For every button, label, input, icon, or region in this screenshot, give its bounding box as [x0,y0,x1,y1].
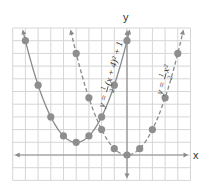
data-point [85,94,92,101]
x-axis-left-arrow-icon [15,153,20,158]
data-point [22,37,29,44]
data-point [85,132,92,139]
y-axis-label: y [123,11,129,23]
data-point [73,139,80,146]
data-point [136,145,143,152]
data-point [73,50,80,57]
data-point [111,145,118,152]
y-axis-down-arrow-icon [125,173,130,178]
curve-arrow-icon [69,30,74,35]
data-point [60,132,67,139]
x-axis-label: x [193,149,199,161]
parabola-graph: x y y = 1 2 (x + 4)² + 1 y = 1 2 x² [0,0,209,193]
eq2-num: 1 [157,73,166,79]
data-point [123,151,130,158]
eq2-rhs: x² [160,64,172,75]
data-point [47,113,54,120]
data-point [174,50,181,57]
x-axis-right-arrow-icon [184,153,189,158]
svg-text:y =: y = [96,93,109,109]
data-point [98,126,105,133]
curve-arrow-icon [180,30,185,35]
data-point [149,126,156,133]
eq1-rhs: (x + 4)² + 1 [103,40,126,86]
data-point [35,82,42,89]
eq1-lhs: y = [96,93,109,109]
data-point [98,113,105,120]
eq2-den: 2 [166,75,175,81]
eq1-num: 1 [99,86,108,92]
